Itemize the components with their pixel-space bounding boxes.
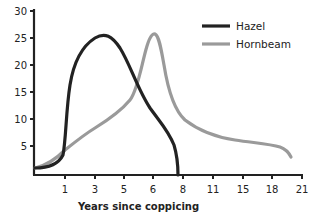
x-tick-label: 5 (121, 184, 127, 195)
legend-label-hazel: Hazel (236, 20, 265, 32)
x-tick-label: 21 (296, 184, 309, 195)
y-ticks: 30252015105 (14, 6, 34, 152)
y-tick-label: 30 (14, 6, 27, 17)
x-tick-label: 8 (180, 184, 186, 195)
series-hornbeam-line (35, 34, 291, 168)
legend: Hazel Hornbeam (202, 20, 291, 50)
legend-label-hornbeam: Hornbeam (236, 38, 291, 50)
x-ticks: 1356811151821 (62, 175, 309, 195)
line-chart: 30252015105 1356811151821 Hazel Hornbeam… (0, 0, 311, 217)
x-tick-label: 1 (62, 184, 68, 195)
x-tick-label: 15 (237, 184, 250, 195)
series-hazel-line (35, 35, 178, 175)
y-tick-label: 10 (14, 114, 27, 125)
y-tick-label: 25 (14, 33, 27, 44)
x-tick-label: 11 (207, 184, 220, 195)
x-tick-label: 6 (150, 184, 156, 195)
y-tick-label: 20 (14, 60, 27, 71)
y-tick-label: 15 (14, 87, 27, 98)
y-tick-label: 5 (21, 141, 27, 152)
x-tick-label: 18 (266, 184, 279, 195)
x-tick-label: 3 (92, 184, 98, 195)
x-axis-title: Years since coppicing (77, 201, 199, 212)
